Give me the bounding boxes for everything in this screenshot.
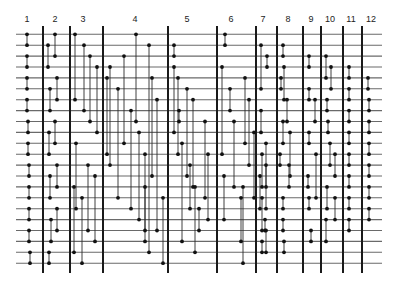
comparator-dot: [258, 207, 262, 211]
comparator-dot: [307, 196, 311, 200]
comparator: [129, 109, 133, 211]
comparator-dot: [73, 32, 77, 36]
comparator-dot: [46, 65, 50, 69]
comparator-dot: [48, 174, 52, 178]
comparator-dot: [307, 54, 311, 58]
comparator-dot: [161, 261, 165, 265]
comparator-dot: [281, 218, 285, 222]
comparator-dot: [48, 87, 52, 91]
comparator-dot: [27, 196, 31, 200]
stage-label-10: 10: [325, 14, 335, 24]
comparator-dot: [55, 229, 59, 233]
stage-label-1: 1: [24, 14, 29, 24]
comparator-dot: [367, 152, 371, 156]
comparator-dot: [27, 229, 31, 233]
comparator-dot: [243, 76, 247, 80]
comparator-dot: [264, 207, 268, 211]
stage-label-11: 11: [346, 14, 355, 24]
comparator-dot: [260, 196, 264, 200]
comparator-dot: [324, 76, 328, 80]
comparator: [108, 65, 112, 167]
comparator-dot: [306, 185, 310, 189]
comparator-dot: [25, 76, 29, 80]
comparator-dot: [367, 185, 371, 189]
comparator: [260, 240, 264, 255]
comparator-dot: [259, 109, 263, 113]
comparator: [172, 43, 176, 58]
comparator-dot: [191, 98, 195, 102]
comparator-dot: [313, 98, 317, 102]
comparator-dot: [258, 174, 262, 178]
comparator: [307, 131, 311, 146]
comparator: [307, 87, 311, 102]
comparator-dot: [328, 163, 332, 167]
comparator-dot: [27, 218, 31, 222]
comparator-dot: [307, 207, 311, 211]
comparator-dot: [206, 218, 210, 222]
comparator-dot: [247, 163, 251, 167]
comparator-dot: [220, 65, 224, 69]
network-canvas: [0, 0, 402, 287]
comparator-dot: [326, 131, 330, 135]
stage-label-4: 4: [132, 14, 137, 24]
comparator-dot: [367, 120, 371, 124]
comparator: [282, 65, 286, 102]
comparator: [28, 250, 32, 265]
comparator-dot: [367, 109, 371, 113]
comparator: [326, 120, 330, 135]
comparator-dot: [172, 43, 176, 47]
comparator-dot: [150, 76, 154, 80]
comparator-dot: [93, 240, 97, 244]
comparator-dot: [197, 229, 201, 233]
stage-label-5: 5: [184, 14, 189, 24]
comparator-dot: [309, 240, 313, 244]
comparator: [367, 141, 371, 156]
comparator-dot: [95, 65, 99, 69]
comparator: [25, 54, 29, 69]
stage-label-7: 7: [260, 14, 265, 24]
comparator-dot: [265, 65, 269, 69]
comparator-dot: [325, 98, 329, 102]
comparator-dot: [105, 76, 109, 80]
comparator-dot: [155, 98, 159, 102]
comparator-dot: [241, 261, 245, 265]
comparator-dot: [307, 87, 311, 91]
comparator-dot: [129, 109, 133, 113]
comparator-dot: [223, 32, 227, 36]
comparator-dot: [180, 240, 184, 244]
comparator-dot: [180, 141, 184, 145]
comparator-dot: [203, 120, 207, 124]
comparator-dot: [259, 43, 263, 47]
comparator: [281, 43, 285, 58]
comparator: [367, 185, 371, 200]
comparator-dot: [347, 174, 351, 178]
comparator: [203, 120, 207, 200]
comparator-dot: [47, 250, 51, 254]
comparator: [265, 54, 269, 69]
comparator-dot: [55, 76, 59, 80]
comparator-dot: [74, 207, 78, 211]
comparator-dot: [82, 109, 86, 113]
comparator-dot: [222, 174, 226, 178]
comparator: [347, 65, 351, 80]
sorting-network-diagram: 1 2 3 4 5 6 7 8 9 10 11 12: [0, 0, 402, 287]
comparator-dot: [333, 152, 337, 156]
comparator-dot: [333, 196, 337, 200]
comparator: [260, 152, 264, 189]
comparator-dot: [172, 54, 176, 58]
comparator-dot: [347, 65, 351, 69]
comparator-dot: [264, 250, 268, 254]
comparator-dot: [259, 87, 263, 91]
comparator-dot: [281, 196, 285, 200]
comparator-dot: [366, 87, 370, 91]
comparator-dot: [325, 109, 329, 113]
comparator-dot: [49, 240, 53, 244]
comparator: [347, 87, 351, 102]
comparator-dot: [150, 174, 154, 178]
comparator-dot: [347, 152, 351, 156]
comparator-dot: [328, 141, 332, 145]
comparator: [347, 152, 351, 167]
comparator-dot: [80, 196, 84, 200]
comparator-dot: [25, 32, 29, 36]
comparator: [347, 109, 351, 124]
